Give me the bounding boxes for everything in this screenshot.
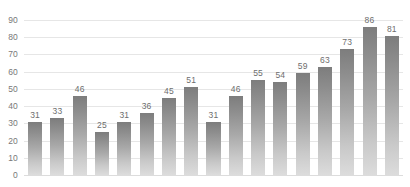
bar bbox=[28, 122, 42, 175]
bar bbox=[385, 36, 399, 176]
bar-group: 63 bbox=[318, 20, 332, 175]
bar-group: 31 bbox=[206, 20, 220, 175]
bar-value-label: 51 bbox=[186, 75, 196, 85]
bar-value-label: 46 bbox=[75, 84, 85, 94]
y-axis-tick-label: 80 bbox=[8, 32, 18, 42]
bar-value-label: 73 bbox=[342, 37, 352, 47]
bar-group: 33 bbox=[50, 20, 64, 175]
bar bbox=[318, 67, 332, 176]
y-axis-tick-label: 90 bbox=[8, 15, 18, 25]
y-axis-tick-label: 10 bbox=[8, 153, 18, 163]
bar-group: 31 bbox=[117, 20, 131, 175]
bar-group: 46 bbox=[229, 20, 243, 175]
bar-value-label: 63 bbox=[320, 55, 330, 65]
bar-value-label: 31 bbox=[30, 110, 40, 120]
bar bbox=[296, 73, 310, 175]
bar bbox=[363, 27, 377, 175]
bar-value-label: 46 bbox=[231, 84, 241, 94]
bar bbox=[229, 96, 243, 175]
bar bbox=[162, 98, 176, 176]
bar-value-label: 55 bbox=[253, 68, 263, 78]
y-axis-tick-label: 40 bbox=[8, 101, 18, 111]
bar bbox=[184, 87, 198, 175]
bar-group: 51 bbox=[184, 20, 198, 175]
bar bbox=[117, 122, 131, 175]
bar-value-label: 31 bbox=[209, 110, 219, 120]
bar-group: 81 bbox=[385, 20, 399, 175]
bar-value-label: 33 bbox=[52, 106, 62, 116]
bar-value-label: 86 bbox=[365, 15, 375, 25]
bar bbox=[73, 96, 87, 175]
y-axis-tick-label: 20 bbox=[8, 136, 18, 146]
bar bbox=[251, 80, 265, 175]
y-axis-tick-label: 70 bbox=[8, 49, 18, 59]
bar-value-label: 31 bbox=[119, 110, 129, 120]
bar bbox=[140, 113, 154, 175]
y-axis-tick-label: 0 bbox=[13, 170, 18, 180]
bar-group: 59 bbox=[296, 20, 310, 175]
y-axis-tick-label: 30 bbox=[8, 118, 18, 128]
bar bbox=[50, 118, 64, 175]
bar bbox=[95, 132, 109, 175]
bar-value-label: 81 bbox=[387, 24, 397, 34]
plot-area: 3133462531364551314655545963738681 bbox=[24, 20, 403, 175]
gridline-0 bbox=[24, 175, 403, 176]
bar-value-label: 59 bbox=[298, 61, 308, 71]
bar-group: 45 bbox=[162, 20, 176, 175]
bar-group: 73 bbox=[340, 20, 354, 175]
bar-value-label: 36 bbox=[142, 101, 152, 111]
bar-group: 46 bbox=[73, 20, 87, 175]
bar-group: 36 bbox=[140, 20, 154, 175]
y-axis: 9080706050403020100 bbox=[0, 20, 22, 175]
bar-value-label: 45 bbox=[164, 86, 174, 96]
bar-group: 55 bbox=[251, 20, 265, 175]
bar-group: 25 bbox=[95, 20, 109, 175]
bar-group: 54 bbox=[273, 20, 287, 175]
bar-group: 31 bbox=[28, 20, 42, 175]
y-axis-tick-label: 60 bbox=[8, 67, 18, 77]
bar-value-label: 25 bbox=[97, 120, 107, 130]
bar-group: 86 bbox=[363, 20, 377, 175]
bar bbox=[273, 82, 287, 175]
bar bbox=[340, 49, 354, 175]
bar bbox=[206, 122, 220, 175]
y-axis-tick-label: 50 bbox=[8, 84, 18, 94]
bar-value-label: 54 bbox=[275, 70, 285, 80]
bar-chart: 9080706050403020100 31334625313645513146… bbox=[0, 0, 410, 187]
